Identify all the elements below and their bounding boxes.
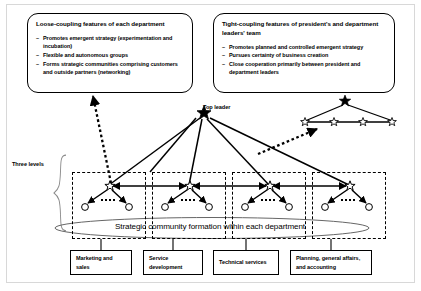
- dotted-arrow-to-president-team: [258, 129, 317, 154]
- team-member-star: [359, 118, 368, 126]
- loose-coupling-bullet: Promotes emergent strategy (experimentat…: [36, 34, 184, 51]
- tight-coupling-title: Tight-coupling features of president's a…: [222, 20, 386, 38]
- tight-coupling-bullet: Pursues certainty of business creation: [222, 51, 386, 59]
- tight-coupling-bullet: Close cooperation primarily between pres…: [222, 60, 386, 77]
- team-member-star: [330, 118, 339, 126]
- top-leader-label: Top leader: [203, 104, 230, 110]
- strategic-community-label: Strategic community formation within eac…: [60, 222, 360, 231]
- department-name: Planning, general affairs, and accountin…: [296, 254, 366, 271]
- team-link-left: [305, 105, 343, 121]
- loose-coupling-bullet: Forms strategic communities comprising c…: [36, 60, 184, 77]
- team-link-right: [348, 105, 393, 121]
- tight-coupling-bullet: Promotes planned and controlled emergent…: [222, 43, 386, 51]
- president-star: [339, 95, 350, 106]
- president-team-network: [305, 105, 393, 122]
- connector-top-left-extra: [150, 118, 196, 172]
- department-name: Technical services: [219, 258, 267, 267]
- tight-coupling-callout: Tight-coupling features of president's a…: [213, 13, 395, 93]
- dotted-arrow-to-left-callout: [93, 96, 111, 183]
- loose-coupling-callout: Loose-coupling features of each departme…: [27, 13, 193, 93]
- department-stems: [101, 239, 331, 250]
- department-name-box: Service development: [143, 250, 203, 275]
- tight-coupling-bullet-list: Promotes planned and controlled emergent…: [222, 43, 386, 77]
- president-team-stars: [301, 95, 397, 126]
- department-name-box: Technical services: [213, 250, 279, 275]
- team-member-star: [388, 118, 397, 126]
- department-name: Service development: [149, 254, 197, 271]
- department-name-box: Planning, general affairs, and accountin…: [290, 250, 372, 275]
- team-member-star: [301, 118, 310, 126]
- loose-coupling-bullet: Flexible and autonomous groups: [36, 51, 184, 59]
- three-levels-brace: [54, 155, 66, 231]
- department-name-box: Marketing and sales: [70, 250, 132, 275]
- diagram-canvas: Loose-coupling features of each departme…: [0, 0, 421, 291]
- loose-coupling-title: Loose-coupling features of each departme…: [36, 20, 184, 29]
- three-levels-label: Three levels: [12, 161, 44, 167]
- loose-coupling-bullet-list: Promotes emergent strategy (experimentat…: [36, 34, 184, 76]
- department-name: Marketing and sales: [76, 254, 126, 271]
